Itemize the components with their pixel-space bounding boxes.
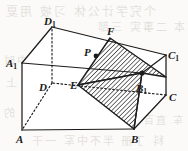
vertex-label-D: D: [39, 82, 47, 93]
vertex-label-subscript-D1: 1: [52, 20, 56, 29]
vertex-label-C1: C1: [168, 50, 179, 61]
vertex-label-B: B: [131, 134, 138, 145]
vertex-label-A: A: [16, 134, 23, 145]
vertex-label-C: C: [169, 92, 176, 103]
vertex-label-subscript-C1: 1: [175, 54, 179, 63]
vertex-label-D1: D1: [44, 16, 56, 27]
point-dot-P: [94, 54, 99, 59]
geometry-svg-canvas: [0, 0, 188, 151]
point-dot-B1: [139, 70, 144, 75]
vertex-label-A1: A1: [6, 58, 17, 69]
vertex-label-P: P: [84, 47, 91, 58]
vertex-label-subscript-A1: 1: [13, 62, 17, 71]
geometry-figure: 个究学计公休 习坡 用夏司本 二事实 三部问的 中时第 样本 上题问门市 革变 …: [0, 0, 188, 151]
vertex-label-B1: B1: [136, 83, 147, 94]
vertex-label-E: E: [70, 80, 77, 91]
vertex-label-F: F: [107, 26, 114, 37]
vertex-label-subscript-B1: 1: [143, 87, 147, 96]
